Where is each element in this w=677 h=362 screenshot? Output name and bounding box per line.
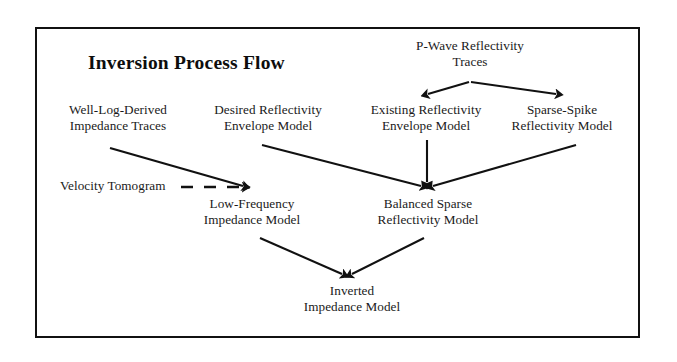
node-sparse-line2: Reflectivity Model — [496, 118, 628, 134]
node-low-frequency-impedance-model: Low-Frequency Impedance Model — [182, 196, 322, 227]
figure-canvas: Inversion Process Flow P-Wave Reflectivi… — [0, 0, 677, 362]
node-velocity-tomogram: Velocity Tomogram — [60, 178, 180, 194]
node-lowfreq-line2: Impedance Model — [182, 212, 322, 228]
node-inverted-line2: Impedance Model — [282, 299, 422, 315]
node-inverted-impedance-model: Inverted Impedance Model — [282, 283, 422, 314]
node-inverted-line1: Inverted — [282, 283, 422, 299]
node-desired-line1: Desired Reflectivity — [190, 102, 346, 118]
node-well-log-derived-impedance-traces: Well-Log-Derived Impedance Traces — [42, 102, 194, 133]
figure-title: Inversion Process Flow — [88, 52, 285, 74]
node-welllog-line1: Well-Log-Derived — [42, 102, 194, 118]
node-desired-line2: Envelope Model — [190, 118, 346, 134]
node-velocity-line1: Velocity Tomogram — [60, 178, 180, 194]
node-balanced-line2: Reflectivity Model — [358, 212, 498, 228]
node-balanced-line1: Balanced Sparse — [358, 196, 498, 212]
node-pwave-reflectivity-traces: P-Wave Reflectivity Traces — [400, 38, 540, 69]
node-balanced-sparse-reflectivity-model: Balanced Sparse Reflectivity Model — [358, 196, 498, 227]
node-sparse-spike-reflectivity-model: Sparse-Spike Reflectivity Model — [496, 102, 628, 133]
node-pwave-line1: P-Wave Reflectivity — [400, 38, 540, 54]
node-existing-reflectivity-envelope-model: Existing Reflectivity Envelope Model — [346, 102, 506, 133]
node-existing-line2: Envelope Model — [346, 118, 506, 134]
node-welllog-line2: Impedance Traces — [42, 118, 194, 134]
node-lowfreq-line1: Low-Frequency — [182, 196, 322, 212]
node-sparse-line1: Sparse-Spike — [496, 102, 628, 118]
node-desired-reflectivity-envelope-model: Desired Reflectivity Envelope Model — [190, 102, 346, 133]
node-pwave-line2: Traces — [400, 54, 540, 70]
node-existing-line1: Existing Reflectivity — [346, 102, 506, 118]
